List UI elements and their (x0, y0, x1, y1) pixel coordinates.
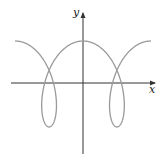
x-axis-label: x (149, 84, 155, 95)
plot-area (0, 0, 164, 162)
y-axis-label: y (73, 7, 79, 18)
parametric-curve-figure: y x (0, 0, 164, 162)
